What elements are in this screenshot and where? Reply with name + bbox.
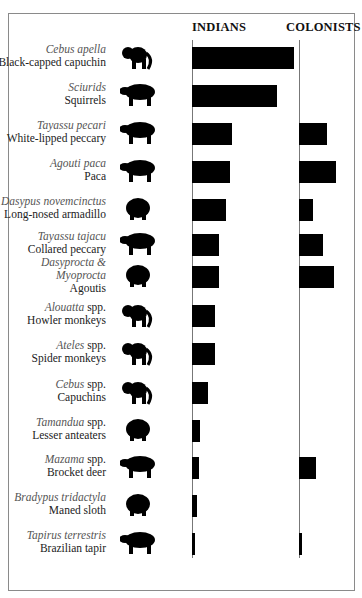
indians-bar [192,85,277,107]
colonists-bar [299,123,327,145]
scientific-suffix: spp. [84,301,106,313]
indians-bar [192,123,232,145]
colonists-bar [299,199,313,221]
scientific-name: Sciurids [68,81,106,93]
scientific-name: Tayassu tajacu [38,230,106,242]
scientific-suffix: spp. [84,378,106,390]
scientific-suffix: spp. [84,453,106,465]
common-name: Maned sloth [14,504,106,517]
category-label: Tayassu pecariWhite-lipped peccary [7,119,106,145]
scientific-name: Cebus [56,378,85,390]
indians-bar [192,382,208,404]
indians-bar [192,533,195,555]
scientific-name: Dasyprocta & [41,256,106,268]
scientific-name: Ateles [56,339,84,351]
category-label: SciuridsSquirrels [64,81,106,107]
scientific-name: Bradypus tridactyla [14,491,106,503]
category-label: Cebus spp.Capuchins [56,378,106,404]
scientific-name: Tamandua [36,416,84,428]
common-name: White-lipped peccary [7,132,106,145]
scientific-suffix: spp. [84,339,106,351]
colonists-bar [299,457,316,479]
spider-monkey-silhouette-icon [120,339,164,369]
indians-bar [192,266,219,288]
common-name: Black-capped capuchin [0,56,106,69]
scientific-suffix: spp. [84,416,106,428]
colonists-header: COLONISTS [286,20,361,35]
indians-bar [192,199,226,221]
common-name: Collared peccary [28,243,106,256]
scientific-name: Agouti paca [50,157,106,169]
scientific-name: Alouatta [45,301,85,313]
paca-silhouette-icon [120,157,164,187]
category-label: Agouti pacaPaca [50,157,106,183]
common-name: Brocket deer [45,466,106,479]
category-label: Alouatta spp.Howler monkeys [27,301,106,327]
deer-silhouette-icon [120,453,164,483]
common-name: Paca [50,170,106,183]
colonists-bar [299,533,302,555]
category-label: Ateles spp.Spider monkeys [32,339,106,365]
category-label: Dasyprocta &MyoproctaAgoutis [41,256,106,295]
colonists-axis [299,40,300,558]
common-name: Agoutis [41,282,106,295]
capuchin-monkey-silhouette-icon [120,378,164,408]
anteater-silhouette-icon [120,416,164,446]
agouti-silhouette-icon [120,262,164,292]
sloth-silhouette-icon [120,491,164,521]
collared-peccary-silhouette-icon [120,230,164,260]
scientific-name-2: Myoprocta [56,269,106,281]
common-name: Spider monkeys [32,352,106,365]
category-label: Mazama spp.Brocket deer [45,453,106,479]
category-label: Dasypus novemcinctusLong-nosed armadillo [1,195,106,221]
category-label: Tayassu tajacuCollared peccary [28,230,106,256]
common-name: Capuchins [56,391,106,404]
indians-bar [192,305,215,327]
indians-bar [192,161,230,183]
indians-bar [192,457,199,479]
tapir-silhouette-icon [120,529,164,559]
scientific-name: Mazama [45,453,85,465]
armadillo-silhouette-icon [120,195,164,225]
indians-header: INDIANS [192,20,246,35]
peccary-silhouette-icon [120,119,164,149]
colonists-bar [299,161,336,183]
indians-bar [192,47,294,69]
colonists-bar [299,266,334,288]
colonists-bar [299,234,323,256]
category-label: Cebus apellaBlack-capped capuchin [0,43,106,69]
indians-bar [192,343,215,365]
indians-bar [192,234,219,256]
indians-bar [192,420,200,442]
scientific-name: Tayassu pecari [37,119,106,131]
scientific-name: Tapirus terrestris [27,529,106,541]
category-label: Tamandua spp.Lesser anteaters [32,416,106,442]
capuchin-silhouette-icon [120,43,164,73]
indians-axis [192,40,193,558]
category-label: Tapirus terrestrisBrazilian tapir [27,529,106,555]
indians-bar [192,495,197,517]
common-name: Lesser anteaters [32,429,106,442]
scientific-name: Cebus apella [46,43,106,55]
scientific-name: Dasypus novemcinctus [1,195,106,207]
common-name: Howler monkeys [27,314,106,327]
common-name: Brazilian tapir [27,542,106,555]
howler-monkey-silhouette-icon [120,301,164,331]
category-label: Bradypus tridactylaManed sloth [14,491,106,517]
squirrel-silhouette-icon [120,81,164,111]
common-name: Squirrels [64,94,106,107]
common-name: Long-nosed armadillo [1,208,106,221]
